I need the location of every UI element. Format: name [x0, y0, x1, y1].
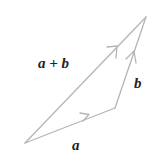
label-a-plus-b: a + b [38, 56, 69, 71]
label-b: b [134, 76, 142, 91]
vector-diagram: a + b b a [0, 0, 161, 153]
vector-a-line [25, 108, 115, 143]
vector-a-arrowhead-icon [80, 113, 89, 121]
vector-b-line [115, 17, 146, 108]
label-a: a [72, 138, 80, 153]
vector-a-plus-b-line [25, 17, 146, 143]
